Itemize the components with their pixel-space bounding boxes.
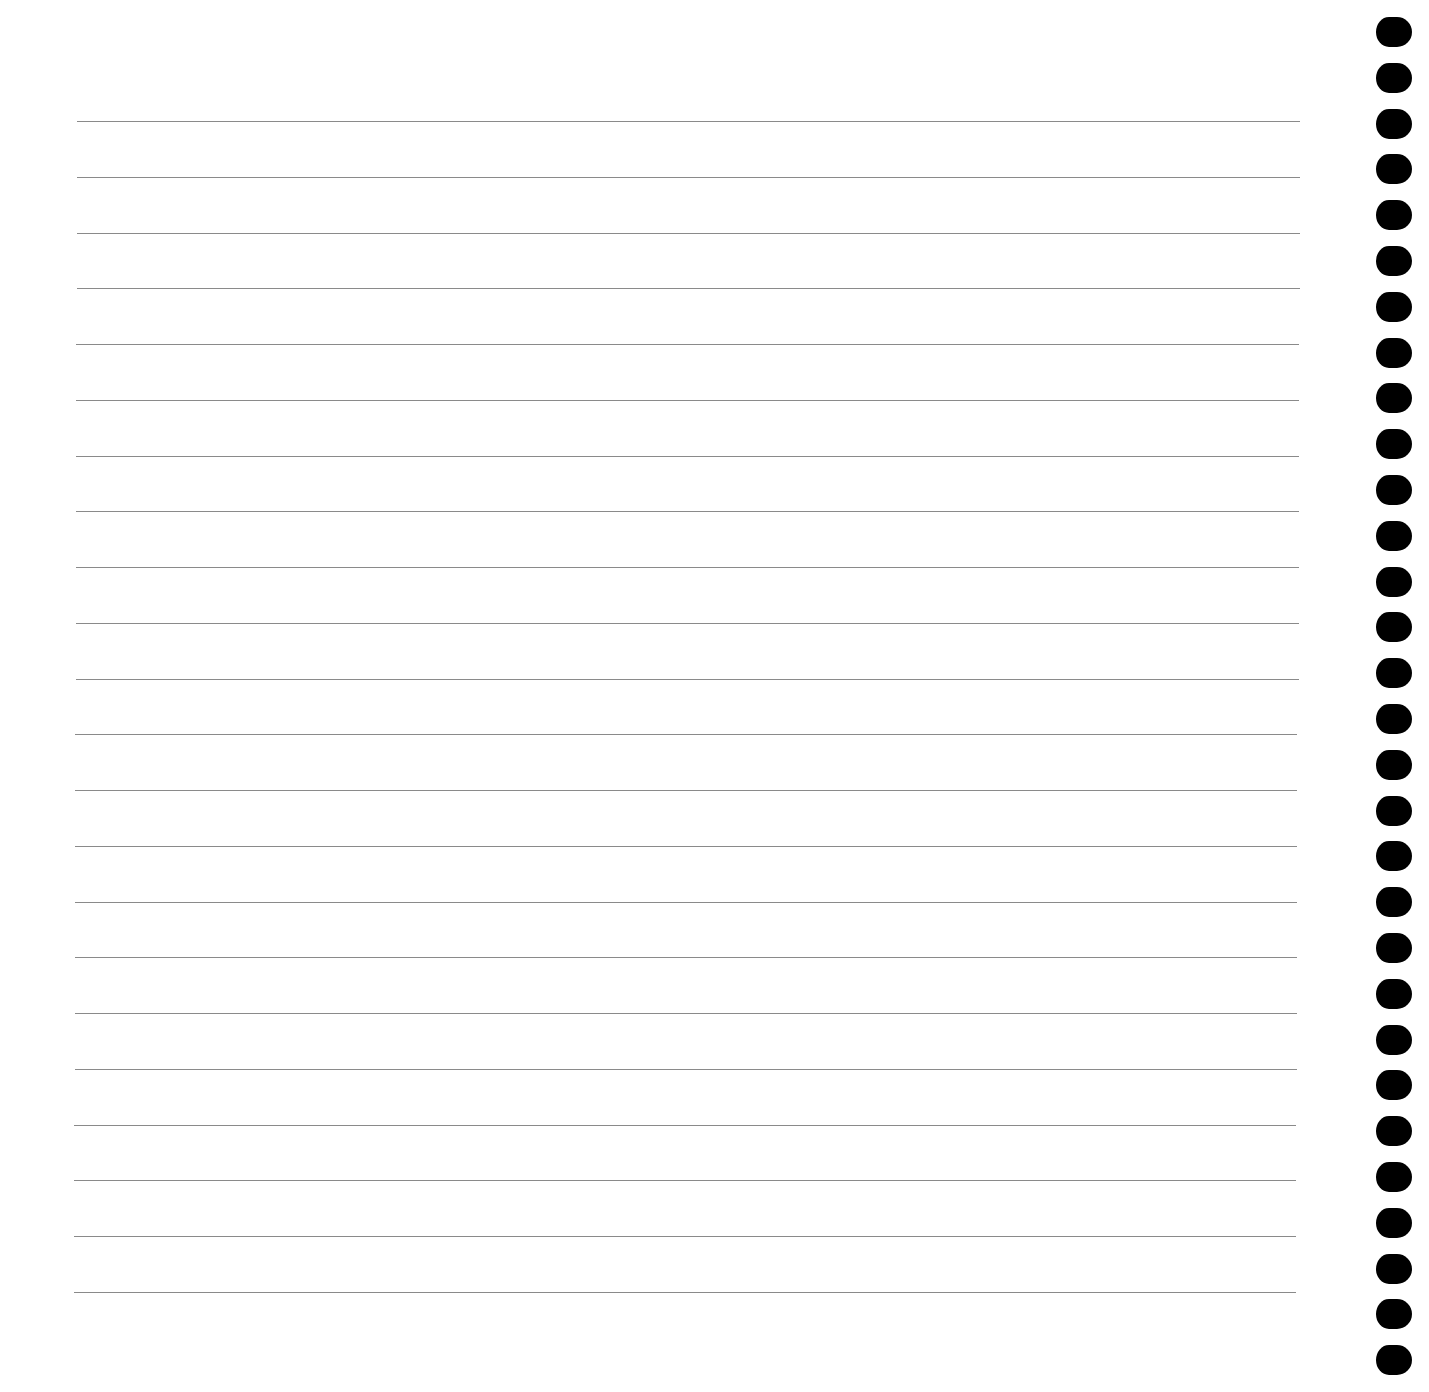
- notebook-page: [0, 0, 1429, 1392]
- ruled-line: [76, 567, 1299, 568]
- ruled-line: [77, 121, 1300, 122]
- ruled-line: [76, 400, 1299, 401]
- binding-hole: [1376, 933, 1412, 963]
- binding-hole: [1376, 612, 1412, 642]
- ruled-line: [75, 902, 1297, 903]
- binding-hole: [1376, 979, 1412, 1009]
- binding-hole: [1376, 887, 1412, 917]
- ruled-line: [76, 623, 1299, 624]
- binding-hole: [1376, 1116, 1412, 1146]
- ruled-line: [76, 511, 1299, 512]
- ruled-line: [75, 957, 1297, 958]
- ruled-line: [76, 344, 1299, 345]
- binding-hole: [1376, 200, 1412, 230]
- binding-hole: [1376, 17, 1412, 47]
- ruled-line: [76, 679, 1299, 680]
- binding-hole: [1376, 1208, 1412, 1238]
- binding-hole: [1376, 475, 1412, 505]
- binding-hole: [1376, 1070, 1412, 1100]
- binding-hole: [1376, 338, 1412, 368]
- binding-hole: [1376, 796, 1412, 826]
- binding-hole: [1376, 1345, 1412, 1375]
- ruled-line: [75, 846, 1297, 847]
- binding-hole: [1376, 1299, 1412, 1329]
- binding-hole: [1376, 704, 1412, 734]
- binding-hole: [1376, 750, 1412, 780]
- ruled-line: [74, 1292, 1296, 1293]
- binding-hole: [1376, 109, 1412, 139]
- ruled-line: [75, 734, 1297, 735]
- binding-hole: [1376, 429, 1412, 459]
- ruled-line: [77, 288, 1300, 289]
- binding-hole: [1376, 1025, 1412, 1055]
- binding-hole: [1376, 658, 1412, 688]
- ruled-line: [77, 233, 1300, 234]
- binding-hole: [1376, 567, 1412, 597]
- ruled-line: [74, 1236, 1296, 1237]
- binding-hole: [1376, 154, 1412, 184]
- ruled-line: [75, 1013, 1297, 1014]
- ruled-line: [74, 1125, 1296, 1126]
- binding-hole: [1376, 383, 1412, 413]
- ruled-line: [75, 1069, 1297, 1070]
- binding-hole: [1376, 1254, 1412, 1284]
- binding-hole: [1376, 521, 1412, 551]
- ruled-line: [74, 1180, 1296, 1181]
- binding-hole: [1376, 246, 1412, 276]
- binding-hole: [1376, 63, 1412, 93]
- ruled-line: [75, 790, 1297, 791]
- binding-hole: [1376, 841, 1412, 871]
- binding-hole: [1376, 1162, 1412, 1192]
- ruled-line: [77, 177, 1300, 178]
- ruled-line: [76, 456, 1299, 457]
- binding-hole: [1376, 292, 1412, 322]
